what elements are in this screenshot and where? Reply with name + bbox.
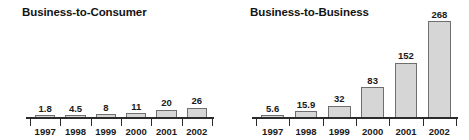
bar-slot: 152: [389, 5, 422, 117]
bar-value-label: 4.5: [69, 104, 82, 114]
year-label: 2002: [423, 125, 456, 139]
bar-value-label: 5.6: [266, 104, 279, 114]
bar-value-label: 32: [334, 94, 345, 104]
bar-value-label: 83: [367, 76, 378, 86]
plot-area-left: 1.84.58112026: [0, 5, 232, 117]
bar-slot: 268: [423, 5, 456, 117]
bar-value-label: 26: [192, 96, 203, 106]
bar-rect: [328, 106, 351, 117]
bar-value-label: 1.8: [39, 104, 52, 114]
bar-slot: 20: [151, 5, 181, 117]
bar-slot: 4.5: [60, 5, 90, 117]
x-axis-tick-labels-right: 199719981999200020012002: [256, 125, 456, 139]
x-axis-tick-labels-left: 199719981999200020012002: [30, 125, 212, 139]
x-axis-tick: [212, 119, 213, 126]
bar-slot: 15.9: [289, 5, 322, 117]
bar-value-label: 20: [161, 98, 172, 108]
year-label: 2002: [182, 125, 212, 139]
bar-rect: [187, 108, 208, 117]
panel-business-to-business: Business-to-Business 5.615.93283152268 1…: [232, 0, 469, 140]
year-label: 2000: [121, 125, 151, 139]
bar-rect: [361, 87, 384, 117]
year-label: 1998: [60, 125, 90, 139]
year-label: 1997: [30, 125, 60, 139]
bar-group-right: 5.615.93283152268: [256, 5, 456, 117]
bar-slot: 11: [121, 5, 151, 117]
x-axis-tick: [456, 119, 457, 126]
bar-rect: [156, 110, 177, 117]
plot-area-right: 5.615.93283152268: [232, 5, 469, 117]
bar-value-label: 268: [431, 10, 447, 20]
bar-rect: [395, 63, 418, 117]
year-label: 1999: [323, 125, 356, 139]
bar-slot: 5.6: [256, 5, 289, 117]
year-label: 2001: [389, 125, 422, 139]
bar-value-label: 11: [131, 102, 141, 112]
bar-value-label: 15.9: [297, 100, 316, 110]
bar-slot: 8: [91, 5, 121, 117]
two-panel-bar-chart-figure: Business-to-Consumer 1.84.58112026 19971…: [0, 0, 469, 140]
year-label: 1998: [289, 125, 322, 139]
panel-business-to-consumer: Business-to-Consumer 1.84.58112026 19971…: [0, 0, 232, 140]
bar-group-left: 1.84.58112026: [30, 5, 212, 117]
bar-value-label: 152: [398, 51, 414, 61]
bar-slot: 83: [356, 5, 389, 117]
bar-value-label: 8: [103, 103, 108, 113]
year-label: 2001: [151, 125, 181, 139]
bar-slot: 26: [182, 5, 212, 117]
bar-rect: [428, 21, 451, 117]
year-label: 1997: [256, 125, 289, 139]
bar-slot: 1.8: [30, 5, 60, 117]
year-label: 2000: [356, 125, 389, 139]
year-label: 1999: [91, 125, 121, 139]
bar-slot: 32: [323, 5, 356, 117]
